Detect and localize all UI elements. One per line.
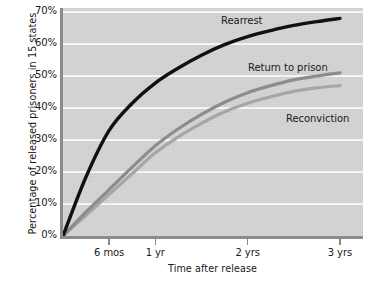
- x-tick-mark: [339, 239, 340, 245]
- series-label-return-to-prison: Return to prison: [248, 62, 328, 73]
- y-tick-label: 0%: [3, 229, 57, 240]
- x-tick-mark: [108, 239, 109, 245]
- x-tick-mark: [247, 239, 248, 245]
- series-label-rearrest: Rearrest: [221, 15, 263, 26]
- y-tick-label: 30%: [3, 133, 57, 144]
- x-axis-title: Time after release: [62, 263, 363, 274]
- x-axis-line: [60, 236, 363, 239]
- x-tick-mark: [155, 239, 156, 245]
- x-tick-label: 3 yrs: [300, 247, 380, 258]
- series-line-rearrest: [63, 18, 340, 236]
- x-tick-label: 2 yrs: [208, 247, 288, 258]
- y-tick-label: 50%: [3, 69, 57, 80]
- y-tick-label: 20%: [3, 165, 57, 176]
- series-line-return-to-prison: [63, 73, 340, 236]
- series-line-reconviction: [63, 86, 340, 236]
- recidivism-line-chart: Percentage of released prisoners in 15 s…: [0, 0, 381, 284]
- y-tick-label: 70%: [3, 5, 57, 16]
- y-tick-label: 10%: [3, 197, 57, 208]
- series-label-reconviction: Reconviction: [286, 113, 349, 124]
- y-tick-label: 60%: [3, 37, 57, 48]
- y-axis-tick-labels: 0%10%20%30%40%50%60%70%: [0, 0, 57, 284]
- x-tick-label: 1 yr: [115, 247, 195, 258]
- y-tick-label: 40%: [3, 101, 57, 112]
